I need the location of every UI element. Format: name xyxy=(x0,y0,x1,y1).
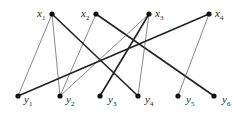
label-x4: x4 xyxy=(214,7,224,22)
node-x3 xyxy=(146,11,151,16)
edge-x4-y5 xyxy=(178,14,209,96)
label-y3: y3 xyxy=(107,93,117,108)
node-y6 xyxy=(211,93,216,98)
labels-layer: x1x2x3x4y1y2y3y4y5y6 xyxy=(23,7,231,108)
node-y2 xyxy=(57,93,62,98)
label-x1: x1 xyxy=(36,7,46,22)
label-x2: x2 xyxy=(80,7,90,22)
bipartite-graph: x1x2x3x4y1y2y3y4y5y6 xyxy=(0,0,245,113)
label-y1: y1 xyxy=(23,93,33,108)
edge-x3-y2 xyxy=(60,14,149,96)
label-x3: x3 xyxy=(154,7,164,22)
node-x2 xyxy=(93,11,98,16)
node-x1 xyxy=(49,11,54,16)
node-y1 xyxy=(15,93,20,98)
node-y5 xyxy=(175,93,180,98)
edge-x3-y4 xyxy=(138,14,149,96)
label-y4: y4 xyxy=(144,93,154,108)
label-y2: y2 xyxy=(65,93,75,108)
edge-x1-y2 xyxy=(52,14,60,96)
label-y6: y6 xyxy=(221,93,231,108)
label-y5: y5 xyxy=(185,93,195,108)
edges-layer xyxy=(18,14,214,96)
node-y3 xyxy=(97,93,102,98)
node-y4 xyxy=(135,93,140,98)
node-x4 xyxy=(206,11,211,16)
